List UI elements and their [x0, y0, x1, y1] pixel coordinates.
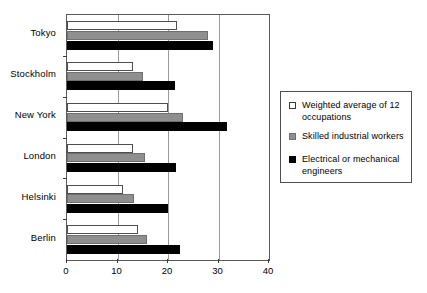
x-axis-label-20: 20: [162, 265, 173, 276]
legend-item-2: Electrical or mechanical engineers: [289, 154, 406, 177]
y-axis-label-berlin: Berlin: [0, 232, 62, 243]
x-axis-tick-10: [117, 259, 118, 263]
bar: [67, 163, 176, 172]
legend-label: Electrical or mechanical engineers: [302, 154, 406, 177]
legend-item-1: Skilled industrial workers: [289, 131, 406, 143]
bar-group-tokyo: [67, 15, 269, 56]
x-axis-label-10: 10: [111, 265, 122, 276]
legend-label: Weighted average of 12 occupations: [302, 100, 406, 123]
x-axis-label-40: 40: [263, 265, 274, 276]
bar: [67, 113, 183, 122]
bar: [67, 245, 180, 254]
x-axis-tick-20: [167, 259, 168, 263]
y-axis-tick: [63, 178, 67, 179]
y-axis-tick: [63, 138, 67, 139]
x-axis: 010203040: [66, 259, 268, 283]
y-axis-tick: [63, 219, 67, 220]
y-axis-label-tokyo: Tokyo: [0, 27, 62, 38]
y-axis-label-london: London: [0, 150, 62, 161]
bar: [67, 62, 133, 71]
y-axis-tick: [63, 97, 67, 98]
bar: [67, 103, 168, 112]
bar: [67, 41, 213, 50]
bar: [67, 235, 147, 244]
y-axis-label-stockholm: Stockholm: [0, 68, 62, 79]
y-axis-category-labels: TokyoStockholmNew YorkLondonHelsinkiBerl…: [0, 14, 62, 259]
bar: [67, 144, 133, 153]
grouped-bar-chart: TokyoStockholmNew YorkLondonHelsinkiBerl…: [0, 0, 427, 293]
bar: [67, 225, 138, 234]
bar-group-helsinki: [67, 178, 269, 219]
black-square-icon: [289, 156, 296, 163]
bar: [67, 122, 227, 131]
gray-square-icon: [289, 133, 296, 140]
y-axis-label-new-york: New York: [0, 109, 62, 120]
bar: [67, 153, 145, 162]
y-axis-tick: [63, 56, 67, 57]
bar: [67, 31, 208, 40]
x-axis-tick-0: [66, 259, 67, 263]
bar: [67, 194, 134, 203]
bar-group-berlin: [67, 219, 269, 260]
plot-area: [66, 14, 270, 261]
bar-group-new-york: [67, 97, 269, 138]
x-axis-label-30: 30: [212, 265, 223, 276]
x-axis-label-0: 0: [63, 265, 68, 276]
x-axis-tick-30: [218, 259, 219, 263]
bar-group-stockholm: [67, 56, 269, 97]
bar: [67, 185, 123, 194]
bar: [67, 204, 168, 213]
bar-group-london: [67, 138, 269, 179]
open-square-icon: [289, 102, 296, 109]
legend-item-0: Weighted average of 12 occupations: [289, 100, 406, 123]
bar: [67, 72, 143, 81]
bar: [67, 21, 177, 30]
x-axis-tick-40: [268, 259, 269, 263]
legend-label: Skilled industrial workers: [302, 131, 404, 143]
bar: [67, 81, 175, 90]
legend: Weighted average of 12 occupationsSkille…: [280, 91, 412, 183]
y-axis-label-helsinki: Helsinki: [0, 191, 62, 202]
